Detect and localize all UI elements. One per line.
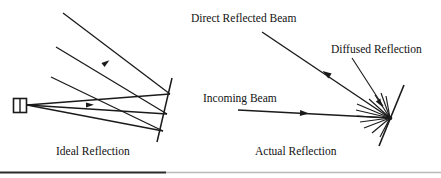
- direct-reflected-beam-label: Direct Reflected Beam: [191, 13, 296, 25]
- impact-point: [388, 116, 393, 121]
- incoming-beam-label: Incoming Beam: [203, 93, 277, 105]
- diffused-reflection-leader-line: [352, 58, 383, 106]
- ideal-reflection-caption: Ideal Reflection: [56, 146, 130, 158]
- incoming-beam-arrowhead: [300, 110, 309, 116]
- diffused-reflection-label: Diffused Reflection: [331, 44, 422, 56]
- reflection-diagram-figure: Ideal Reflection Actual Reflection Direc…: [0, 0, 441, 178]
- ideal-reflection-group: [14, 13, 173, 142]
- actual-reflection-caption: Actual Reflection: [255, 146, 336, 158]
- light-source-icon: [14, 99, 27, 113]
